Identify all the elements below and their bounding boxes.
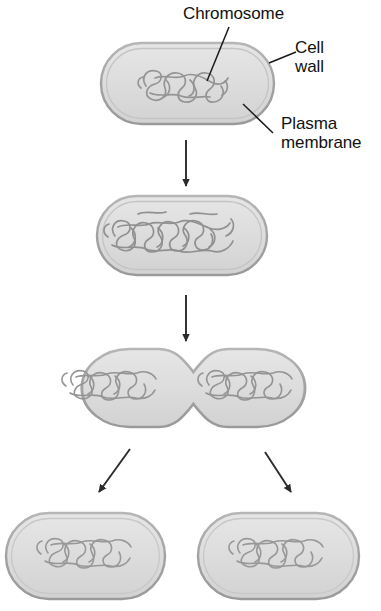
label-plasma-membrane: Plasma membrane bbox=[281, 114, 361, 152]
cell-body-daughter-right bbox=[198, 513, 359, 599]
label-chromosome: Chromosome bbox=[183, 4, 284, 23]
label-cell-wall: Cell wall bbox=[295, 38, 324, 76]
cell-body-stage3 bbox=[82, 349, 305, 427]
arrow-stage3-to-daughter-left bbox=[99, 449, 130, 492]
stage-4-daughter-cell-left bbox=[6, 513, 165, 599]
arrow-stage3-to-daughter-right bbox=[265, 452, 291, 492]
cell-body-stage1 bbox=[101, 43, 274, 124]
leader-cell-wall bbox=[269, 52, 296, 63]
binary-fission-diagram: Chromosome Cell wall Plasma membrane bbox=[0, 0, 381, 611]
stage-3-dividing-cell bbox=[62, 349, 305, 427]
cell-body-daughter-left bbox=[6, 513, 165, 599]
diagram-canvas bbox=[0, 0, 381, 611]
stage-4-daughter-cell-right bbox=[198, 513, 359, 599]
stage-2-replicated-cell bbox=[97, 196, 267, 275]
stage-1-parent-cell bbox=[101, 43, 274, 124]
